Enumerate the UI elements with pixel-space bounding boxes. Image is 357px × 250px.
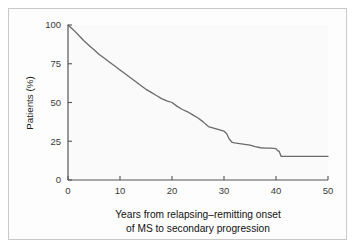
y-tick-label-75: 75 [50,58,61,69]
x-axis-tick-labels: 01020304050 [65,185,333,196]
x-tick-label-20: 20 [167,185,178,196]
y-tick-label-0: 0 [56,174,61,185]
y-axis-tick-labels: 0255075100 [45,19,61,185]
y-tick-label-100: 100 [45,19,61,30]
x-axis-caption-line1: Years from relapsing–remitting onset [115,209,281,220]
x-tick-label-0: 0 [65,185,70,196]
x-tick-label-50: 50 [323,185,334,196]
x-tick-label-10: 10 [115,185,126,196]
kaplan-meier-chart: 0255075100 01020304050 Patients (%) Year… [0,0,357,250]
y-axis-title: Patients (%) [24,76,35,129]
x-tick-label-40: 40 [271,185,282,196]
y-tick-label-25: 25 [50,136,61,147]
x-tick-label-30: 30 [219,185,230,196]
x-axis-caption-line2: of MS to secondary progression [126,223,270,234]
chart-plot-wrapper: 0255075100 01020304050 Patients (%) Year… [0,0,357,250]
y-tick-label-50: 50 [50,97,61,108]
figure-container: 0255075100 01020304050 Patients (%) Year… [0,0,357,250]
